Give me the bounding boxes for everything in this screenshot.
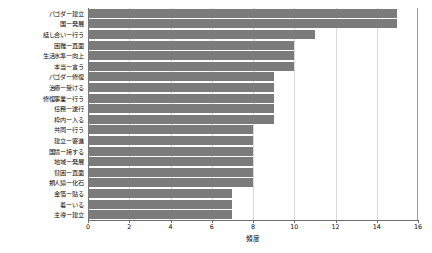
bar <box>88 157 253 166</box>
x-axis-title: 頻度 <box>88 233 418 243</box>
bar <box>88 62 294 71</box>
bar <box>88 189 232 198</box>
x-tick-label: 12 <box>331 223 339 231</box>
bar-chart: パゴダー建立国ー発展話し合いー行う困難ー直面生活水準ー向上本当ー言うパゴダー修復… <box>0 0 432 253</box>
bar-row <box>0 62 432 71</box>
x-tick-label: 16 <box>414 223 422 231</box>
x-tick-label: 6 <box>210 223 214 231</box>
bar-row <box>0 9 432 18</box>
x-tick-label: 14 <box>373 223 381 231</box>
bar-row <box>0 104 432 113</box>
bar <box>88 83 274 92</box>
bar <box>88 19 397 28</box>
bar-row <box>0 72 432 81</box>
x-tick-label: 2 <box>127 223 131 231</box>
bar <box>88 94 274 103</box>
bar <box>88 115 274 124</box>
bar <box>88 125 253 134</box>
bar <box>88 178 253 187</box>
bar-row <box>0 94 432 103</box>
bar-row <box>0 147 432 156</box>
bar <box>88 51 294 60</box>
bar <box>88 147 253 156</box>
bar-row <box>0 83 432 92</box>
x-tick-label: 0 <box>86 223 90 231</box>
x-tick-label: 10 <box>290 223 298 231</box>
bar-row <box>0 210 432 219</box>
bar <box>88 168 253 177</box>
bar-row <box>0 30 432 39</box>
bar-row <box>0 115 432 124</box>
bar-row <box>0 168 432 177</box>
bar <box>88 30 315 39</box>
bar-row <box>0 19 432 28</box>
bar <box>88 72 274 81</box>
bar <box>88 136 253 145</box>
bar <box>88 104 274 113</box>
bar-row <box>0 125 432 134</box>
bar <box>88 200 232 209</box>
bar-row <box>0 178 432 187</box>
bar <box>88 9 397 18</box>
bar <box>88 210 232 219</box>
bar-row <box>0 51 432 60</box>
bar-row <box>0 41 432 50</box>
bar-series <box>0 0 432 253</box>
x-tick-label: 4 <box>168 223 172 231</box>
bar-row <box>0 200 432 209</box>
bar-row <box>0 136 432 145</box>
bar <box>88 41 294 50</box>
bar-row <box>0 157 432 166</box>
bar-row <box>0 189 432 198</box>
x-tick-label: 8 <box>251 223 255 231</box>
